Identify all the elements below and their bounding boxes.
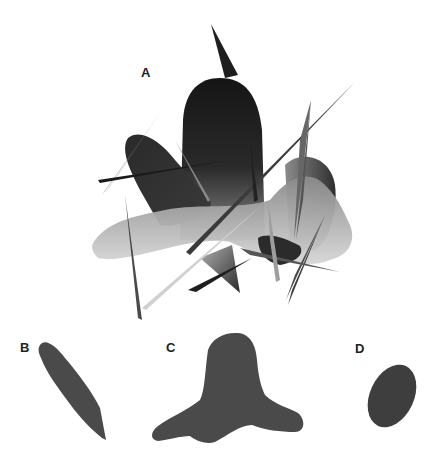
shape-d xyxy=(0,0,437,456)
figure: A B C D xyxy=(0,0,437,456)
